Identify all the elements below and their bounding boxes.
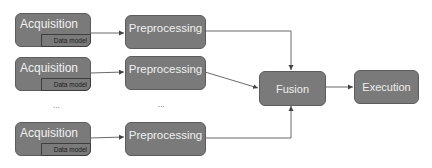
acquisition-label: Acquisition xyxy=(20,17,78,31)
acquisition-node-1: Acquisition Data model xyxy=(15,13,91,47)
preprocessing-node-3: Preprocessing xyxy=(125,122,206,156)
preprocessing-label: Preprocessing xyxy=(126,21,205,35)
arrow-acq2-pp2 xyxy=(90,72,124,73)
arrow-pp1-fusion xyxy=(205,31,291,70)
data-model-subbox: Data model xyxy=(41,78,91,91)
execution-label: Execution xyxy=(355,81,418,93)
acquisition-label: Acquisition xyxy=(20,61,78,75)
preprocessing-label: Preprocessing xyxy=(126,128,205,142)
acquisition-node-3: Acquisition Data model xyxy=(15,122,91,156)
ellipsis-preprocessing: ... xyxy=(158,101,165,109)
data-model-subbox: Data model xyxy=(41,34,91,47)
acquisition-label: Acquisition xyxy=(20,126,78,140)
acquisition-node-2: Acquisition Data model xyxy=(15,57,91,91)
arrow-pp3-fusion xyxy=(205,106,291,138)
fusion-node: Fusion xyxy=(259,71,326,106)
arrow-acq3-pp3 xyxy=(90,137,124,138)
arrow-pp2-fusion xyxy=(205,72,258,88)
ellipsis-acquisition: ... xyxy=(53,102,60,110)
preprocessing-node-1: Preprocessing xyxy=(125,15,206,49)
execution-node: Execution xyxy=(354,70,419,104)
fusion-label: Fusion xyxy=(260,83,325,95)
preprocessing-label: Preprocessing xyxy=(126,62,205,76)
data-model-subbox: Data model xyxy=(41,143,91,156)
preprocessing-node-2: Preprocessing xyxy=(125,56,206,90)
